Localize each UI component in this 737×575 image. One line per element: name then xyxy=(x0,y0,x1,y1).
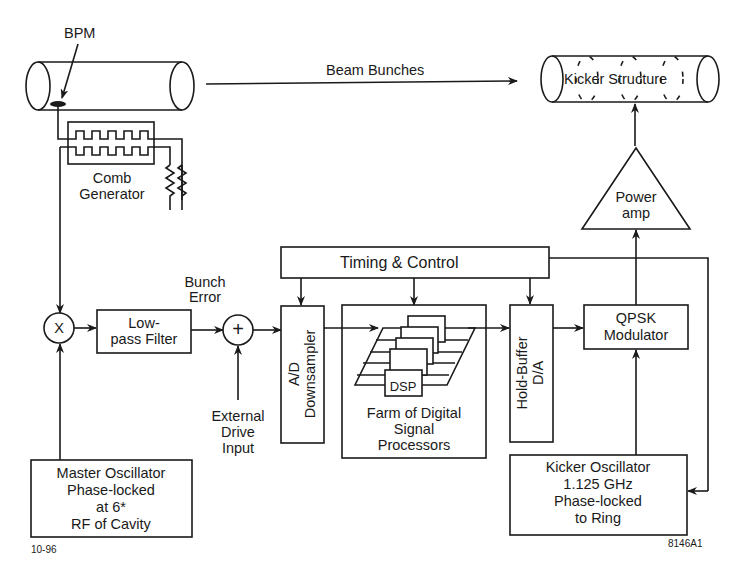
mixer-symbol: X xyxy=(54,320,64,336)
qpsk-label-2: Modulator xyxy=(604,327,669,343)
bpm-pointer-arrow xyxy=(62,44,78,98)
ad-label-2: Downsampler xyxy=(302,330,318,419)
master-osc-line-2: Phase-locked xyxy=(67,482,155,498)
diagram-canvas: BPM Beam Bunches Kicker Structure Comb G… xyxy=(0,0,737,575)
kicker-osc-line-4: to Ring xyxy=(575,510,621,526)
kicker-osc-line-1: Kicker Oscillator xyxy=(546,459,651,475)
external-drive-label-3: Input xyxy=(222,440,254,456)
dsp-farm-label-2: Signal xyxy=(394,421,434,437)
dsp-farm-label-1: Farm of Digital xyxy=(367,405,461,421)
comb-generator-label-2: Generator xyxy=(79,186,144,202)
kicker-osc-line-2: 1.125 GHz xyxy=(563,476,632,492)
power-amp-label-1: Power xyxy=(615,189,656,205)
beam-bunches-label: Beam Bunches xyxy=(326,62,424,78)
figure-code: 8146A1 xyxy=(668,538,703,549)
ad-label-1: A/D xyxy=(286,362,302,386)
master-osc-line-1: Master Oscillator xyxy=(57,465,166,481)
hold-buffer-label-1: Hold-Buffer xyxy=(514,336,530,409)
master-osc-line-3: at 6* xyxy=(96,499,126,515)
power-amp-label-2: amp xyxy=(622,205,650,221)
bunch-error-label-1: Bunch xyxy=(184,274,225,290)
bunch-error-label-2: Error xyxy=(189,289,221,305)
dsp-label: DSP xyxy=(390,379,417,394)
timing-control-label: Timing & Control xyxy=(340,254,459,271)
summer-symbol: + xyxy=(232,318,244,340)
kicker-osc-line-3: Phase-locked xyxy=(554,493,642,509)
lowpass-label-1: Low- xyxy=(128,315,160,331)
bpm-label: BPM xyxy=(64,25,95,41)
lowpass-label-2: pass Filter xyxy=(111,331,178,347)
comb-generator-label-1: Comb xyxy=(93,170,132,186)
date-code: 10-96 xyxy=(31,544,57,555)
qpsk-label-1: QPSK xyxy=(616,310,657,326)
kicker-structure-label: Kicker Structure xyxy=(564,71,667,87)
external-drive-label-2: Drive xyxy=(221,424,255,440)
master-osc-line-4: RF of Cavity xyxy=(71,516,152,532)
hold-buffer-label-2: D/A xyxy=(530,361,546,386)
beam-bunches-arrow xyxy=(206,81,517,84)
dsp-farm-label-3: Processors xyxy=(378,437,451,453)
external-drive-label-1: External xyxy=(211,408,264,424)
